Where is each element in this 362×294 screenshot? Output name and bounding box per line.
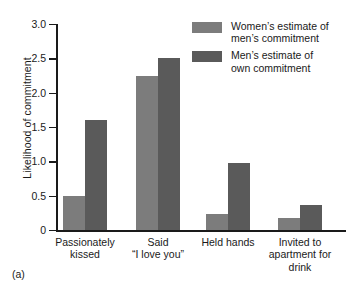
x-axis-labels: Passionately kissedSaid “I love you”Held…: [56, 236, 346, 288]
bar: [63, 196, 85, 230]
legend-item: Women’s estimate of men’s commitment: [192, 20, 329, 44]
bar: [136, 76, 158, 231]
bar: [300, 205, 322, 230]
legend-label: Men’s estimate of own commitment: [231, 49, 313, 73]
bar-group: [136, 58, 180, 230]
y-tick-mark: [49, 161, 56, 162]
y-tick-mark: [49, 93, 56, 94]
y-tick-label: 2.0: [31, 87, 46, 98]
bar: [278, 218, 300, 230]
x-axis-line: [56, 230, 346, 232]
legend-item: Men’s estimate of own commitment: [192, 49, 329, 73]
bar: [85, 120, 107, 230]
y-tick-label: 0: [40, 225, 46, 236]
bar: [228, 163, 250, 230]
y-tick-label: 0.5: [31, 190, 46, 201]
y-tick-label: 1.0: [31, 156, 46, 167]
y-tick-mark: [49, 230, 56, 231]
legend-swatch: [192, 51, 222, 62]
y-tick-mark: [49, 24, 56, 25]
bar-chart-figure: Likelihood of commitment 00.51.01.52.02.…: [0, 0, 362, 294]
legend-swatch: [192, 22, 222, 33]
legend-label: Women’s estimate of men’s commitment: [231, 20, 329, 44]
y-tick-label: 1.5: [31, 122, 46, 133]
y-tick-mark: [49, 196, 56, 197]
y-tick-label: 3.0: [31, 19, 46, 30]
y-tick-mark: [49, 127, 56, 128]
figure-caption: (a): [12, 268, 25, 280]
x-axis-label: Invited to apartment for drink: [254, 236, 346, 273]
y-tick-mark: [49, 58, 56, 59]
y-tick-label: 2.5: [31, 53, 46, 64]
bar: [158, 58, 180, 230]
bar-group: [206, 163, 250, 230]
bar-group: [63, 120, 107, 230]
chart-legend: Women’s estimate of men’s commitmentMen’…: [192, 20, 329, 79]
bar: [206, 214, 228, 230]
bar-group: [278, 205, 322, 230]
